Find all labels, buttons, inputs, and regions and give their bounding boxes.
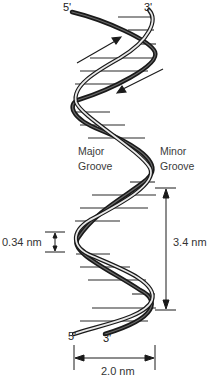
helix-graphic <box>0 0 209 379</box>
helical-turn-marker <box>155 188 176 310</box>
major-groove-label: Major Groove <box>78 144 112 174</box>
base-pair-spacing-label: 0.34 nm <box>2 237 42 248</box>
bottom-left-5prime-label: 5' <box>68 331 76 342</box>
minor-groove-label: Minor Groove <box>160 144 194 174</box>
bottom-right-3prime-label: 3' <box>103 333 111 344</box>
base-pair-spacing-marker <box>45 232 65 252</box>
top-left-5prime-label: 5' <box>63 2 71 13</box>
arrow-up-right-head <box>112 37 121 44</box>
top-right-3prime-label: 3' <box>144 2 152 13</box>
diameter-label: 2.0 nm <box>101 366 135 377</box>
arrow-up-right <box>77 40 117 63</box>
helical-turn-label: 3.4 nm <box>173 237 207 248</box>
arrow-down-left-head <box>117 86 126 93</box>
dna-helix-diagram: 5' 3' 5' 3' Major Groove Minor Groove 0.… <box>0 0 209 379</box>
